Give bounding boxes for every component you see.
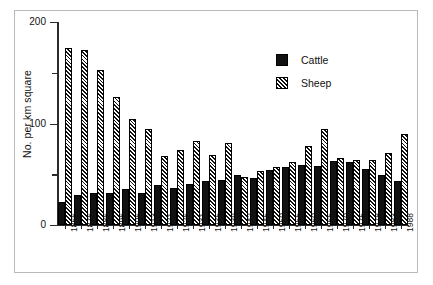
- x-tick: [65, 225, 66, 229]
- bar-sheep: [113, 97, 119, 225]
- bar-cattle: [90, 193, 96, 225]
- chart-figure: No. per km square 0100200 18661876188618…: [0, 0, 433, 285]
- bar-sheep: [225, 143, 231, 225]
- bar-cattle: [346, 162, 352, 225]
- x-tick: [177, 225, 178, 229]
- legend-item-sheep: Sheep: [276, 77, 331, 89]
- bar-cattle: [314, 166, 320, 225]
- y-axis-title: No. per km square: [21, 54, 33, 174]
- bar-sheep: [129, 119, 135, 225]
- bar-sheep: [257, 171, 263, 225]
- bar-sheep: [145, 129, 151, 225]
- x-tick: [321, 225, 322, 229]
- legend-label-cattle: Cattle: [301, 55, 328, 66]
- x-tick: [209, 225, 210, 229]
- bar-cattle: [250, 178, 256, 225]
- bar-sheep: [321, 129, 327, 225]
- bar-cattle: [74, 195, 80, 225]
- legend-label-sheep: Sheep: [301, 78, 331, 89]
- bar-sheep: [401, 134, 407, 225]
- bar-cattle: [138, 193, 144, 225]
- x-tick: [129, 225, 130, 229]
- x-tick: [401, 225, 402, 229]
- bar-cattle: [394, 181, 400, 225]
- bar-cattle: [330, 161, 336, 225]
- bar-sheep: [209, 155, 215, 225]
- x-tick: [337, 225, 338, 229]
- legend-item-cattle: Cattle: [276, 54, 331, 66]
- chart-legend: Cattle Sheep: [276, 54, 331, 100]
- x-tick: [225, 225, 226, 229]
- bar-cattle: [282, 167, 288, 225]
- bar-cattle: [202, 181, 208, 225]
- x-tick: [193, 225, 194, 229]
- y-tick-label: 200: [8, 17, 46, 27]
- bar-sheep: [353, 160, 359, 225]
- x-tick: [145, 225, 146, 229]
- bar-sheep: [289, 162, 295, 225]
- bar-cattle: [106, 193, 112, 225]
- bar-cattle: [58, 202, 64, 225]
- x-tick: [385, 225, 386, 229]
- bar-sheep: [65, 48, 71, 225]
- x-tick: [161, 225, 162, 229]
- legend-swatch-sheep-icon: [276, 77, 288, 89]
- bar-sheep: [193, 141, 199, 225]
- y-tick-label: 100: [8, 119, 46, 129]
- bar-sheep: [177, 150, 183, 225]
- bar-cattle: [186, 184, 192, 225]
- bar-sheep: [241, 177, 247, 225]
- plot-area: [57, 22, 409, 225]
- bar-cattle: [122, 189, 128, 225]
- bar-cattle: [362, 169, 368, 225]
- bar-cattle: [298, 165, 304, 225]
- y-tick-label: 0: [8, 220, 46, 230]
- x-tick: [353, 225, 354, 229]
- bar-sheep: [81, 50, 87, 225]
- x-tick: [257, 225, 258, 229]
- x-tick: [113, 225, 114, 229]
- x-tick: [369, 225, 370, 229]
- bar-sheep: [369, 160, 375, 225]
- bar-cattle: [154, 185, 160, 225]
- bar-sheep: [337, 158, 343, 225]
- bar-cattle: [170, 188, 176, 225]
- x-tick: [273, 225, 274, 229]
- bar-sheep: [273, 167, 279, 225]
- bar-cattle: [378, 175, 384, 225]
- bar-sheep: [161, 156, 167, 225]
- bar-sheep: [97, 70, 103, 225]
- x-tick: [97, 225, 98, 229]
- y-tick-major: [50, 225, 58, 226]
- x-tick: [289, 225, 290, 229]
- bar-sheep: [305, 146, 311, 225]
- bar-cattle: [266, 170, 272, 225]
- x-tick: [81, 225, 82, 229]
- x-tick: [241, 225, 242, 229]
- bar-cattle: [234, 175, 240, 225]
- x-tick: [305, 225, 306, 229]
- legend-swatch-cattle-icon: [276, 54, 288, 66]
- bar-cattle: [218, 180, 224, 225]
- bar-sheep: [385, 153, 391, 225]
